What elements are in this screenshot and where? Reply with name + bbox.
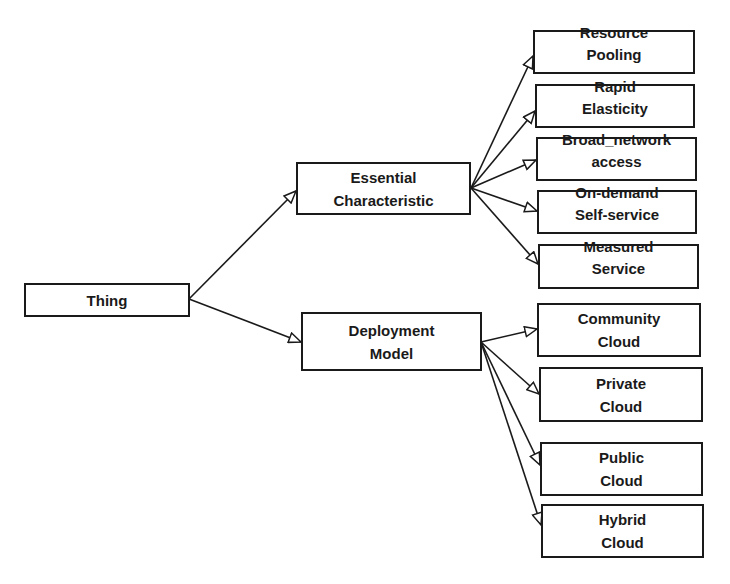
edge-essential-broad-network (471, 160, 536, 188)
node-label: Resource (580, 22, 648, 44)
node-on-demand-self-service: On-demand Self-service (537, 190, 697, 234)
node-label: Pooling (587, 44, 642, 66)
edge-thing-essential (189, 191, 296, 299)
node-label: Thing (87, 289, 128, 312)
node-label: Deployment (349, 319, 435, 342)
node-label: Model (370, 342, 413, 365)
node-label: Essential (351, 166, 417, 189)
node-resource-pooling: Resource Pooling (533, 30, 695, 74)
node-label: Rapid (594, 76, 636, 98)
node-label: Broad_network (562, 129, 671, 151)
edge-deployment-community-cloud (481, 329, 537, 342)
node-private-cloud: Private Cloud (539, 367, 703, 422)
node-label: Measured (583, 236, 653, 258)
node-community-cloud: Community Cloud (537, 303, 701, 357)
node-label: access (591, 151, 641, 173)
node-label: Self-service (575, 204, 659, 226)
node-label: Characteristic (333, 189, 433, 212)
node-label: Elasticity (582, 98, 648, 120)
node-label: Private (596, 372, 646, 395)
class-hierarchy-diagram: Thing Essential Characteristic Deploymen… (0, 0, 730, 584)
node-label: Hybrid (599, 508, 647, 531)
edge-deployment-public-cloud (481, 342, 540, 465)
node-label: Cloud (600, 395, 643, 418)
node-essential-characteristic: Essential Characteristic (296, 162, 471, 215)
node-label: On-demand (575, 182, 658, 204)
node-broad-network-access: Broad_network access (536, 137, 697, 181)
node-label: Cloud (598, 330, 641, 353)
node-label: Community (578, 307, 661, 330)
node-hybrid-cloud: Hybrid Cloud (541, 504, 704, 558)
node-label: Public (599, 446, 644, 469)
node-label: Cloud (600, 469, 643, 492)
node-thing: Thing (24, 283, 190, 317)
edge-thing-deployment (189, 299, 301, 342)
node-deployment-model: Deployment Model (301, 312, 482, 371)
edge-essential-rapid-elasticity (471, 111, 535, 188)
node-label: Service (592, 258, 645, 280)
edge-essential-resource-pooling (471, 56, 533, 188)
node-measured-service: Measured Service (538, 244, 699, 289)
node-label: Cloud (601, 531, 644, 554)
node-rapid-elasticity: Rapid Elasticity (535, 84, 695, 128)
node-public-cloud: Public Cloud (540, 442, 703, 496)
